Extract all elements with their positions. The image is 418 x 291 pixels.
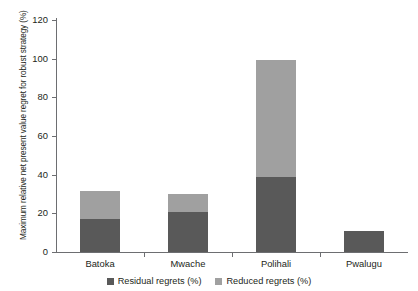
y-tick-label: 60 [38,130,48,141]
bar-segment-reduced[interactable] [168,194,208,212]
x-label-polihali: Polihali [232,258,320,269]
y-tick-mark [52,252,56,253]
bar-segment-reduced[interactable] [256,60,296,177]
plot-area [56,20,406,252]
y-tick-label: 80 [38,91,48,102]
y-tick-label: 100 [32,53,48,64]
x-tick-mark [232,252,233,257]
bar-polihali[interactable] [256,60,296,252]
chart-legend: Residual regrets (%)Reduced regrets (%) [0,276,418,287]
x-tick-mark [144,252,145,257]
y-tick-label: 0 [43,246,48,257]
bar-segment-residual[interactable] [256,177,296,252]
x-label-pwalugu: Pwalugu [320,258,408,269]
legend-item[interactable]: Reduced regrets (%) [215,276,311,287]
bar-pwalugu[interactable] [344,231,384,252]
y-axis-title: Maximum relative net present value regre… [19,5,29,245]
legend-swatch-icon [215,278,222,285]
bar-segment-residual[interactable] [80,219,120,252]
legend-label: Residual regrets (%) [118,276,202,287]
bar-segment-residual[interactable] [344,231,384,252]
x-tick-mark [320,252,321,257]
legend-swatch-icon [107,278,114,285]
legend-label: Reduced regrets (%) [226,276,311,287]
bar-mwache[interactable] [168,194,208,252]
y-tick-label: 120 [32,14,48,25]
y-tick-label: 20 [38,207,48,218]
legend-item[interactable]: Residual regrets (%) [107,276,202,287]
x-label-mwache: Mwache [144,258,232,269]
bar-batoka[interactable] [80,191,120,252]
y-tick-label: 40 [38,169,48,180]
x-label-batoka: Batoka [56,258,144,269]
bar-segment-residual[interactable] [168,212,208,252]
bar-segment-reduced[interactable] [80,191,120,219]
bar-chart: Maximum relative net present value regre… [0,0,418,291]
